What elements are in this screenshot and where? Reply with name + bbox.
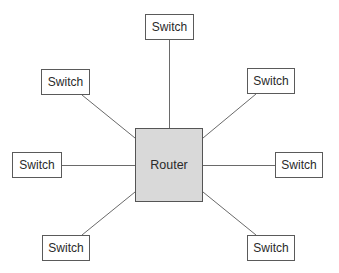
switch-label: Switch	[19, 158, 54, 172]
switch-label: Switch	[281, 158, 316, 172]
switch-label: Switch	[48, 75, 83, 89]
switch-node-top-right: Switch	[247, 68, 295, 94]
link-router-top-left	[82, 95, 135, 138]
switch-node-left: Switch	[12, 152, 62, 178]
link-router-bottom-right	[203, 192, 256, 235]
network-star-diagram: Router Switch Switch Switch Switch Switc…	[0, 0, 339, 273]
switch-node-bottom-right: Switch	[247, 235, 295, 261]
switch-node-bottom-left: Switch	[42, 235, 90, 261]
router-node: Router	[135, 128, 203, 202]
switch-label: Switch	[48, 241, 83, 255]
switch-label: Switch	[253, 241, 288, 255]
switch-label: Switch	[253, 74, 288, 88]
switch-node-right: Switch	[275, 152, 323, 178]
router-label: Router	[150, 158, 188, 172]
switch-node-top: Switch	[145, 14, 194, 40]
switch-node-top-left: Switch	[41, 69, 90, 95]
switch-label: Switch	[152, 20, 187, 34]
link-router-top-right	[203, 94, 256, 138]
link-router-bottom-left	[82, 192, 135, 235]
